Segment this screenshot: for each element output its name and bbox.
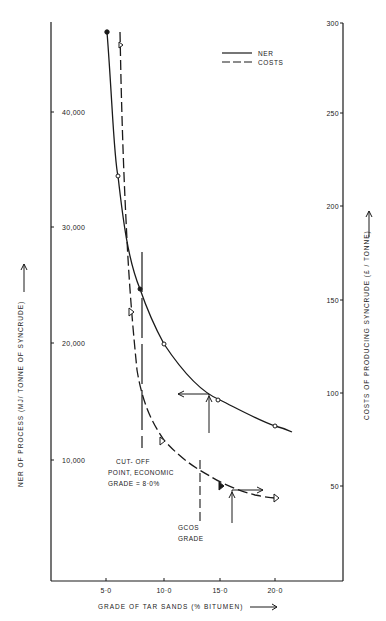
y2-tick-50: 50 <box>331 483 339 490</box>
legend-costs-label: COSTS <box>258 59 283 66</box>
left-y-axis-title: NER OF PROCESS (MJ/ TONNE OF SYNCRUDE) <box>17 301 25 487</box>
x-axis-arrow-icon <box>250 604 277 610</box>
y-tick-20000: 20,000 <box>62 340 85 347</box>
cutoff-text-line1: CUT- OFF <box>116 458 150 465</box>
costs-point-6 <box>119 42 123 48</box>
x-tick-15: 15·0 <box>212 587 227 594</box>
cutoff-annotation: CUT- OFF POINT, ECONOMIC GRADE = 8·0% <box>108 458 174 487</box>
costs-point-20 <box>274 494 279 502</box>
y-tick-10000: 10,000 <box>62 457 85 464</box>
y2-tick-100: 100 <box>326 390 339 397</box>
left-y-tick-labels: 40,000 30,000 20,000 10,000 <box>62 109 85 464</box>
y2-tick-150: 150 <box>326 297 339 304</box>
ner-point-6 <box>116 174 120 178</box>
right-y-axis-title: COSTS OF PRODUCING SYNCRUDE (£ / TONNE) <box>363 230 371 420</box>
gcos-annotation: GCOS GRADE <box>178 524 204 542</box>
x-axis-title: GRADE OF TAR SANDS (% BITUMEN) <box>98 603 243 611</box>
legend: NER COSTS <box>222 50 283 66</box>
left-y-axis-arrow-icon <box>21 264 27 292</box>
y-tick-30000: 30,000 <box>62 224 85 231</box>
cutoff-text-line3: GRADE = 8·0% <box>108 480 160 487</box>
ner-point-15 <box>216 398 220 402</box>
ner-curve <box>107 32 292 432</box>
x-tick-20: 20·0 <box>267 587 282 594</box>
y2-tick-300: 300 <box>326 20 339 27</box>
ner-readoff-arrows <box>178 391 212 433</box>
x-tick-5: 5·0 <box>100 587 111 594</box>
ner-costs-chart: 40,000 30,000 20,000 10,000 300 250 200 … <box>0 0 386 621</box>
ner-markers <box>105 30 277 428</box>
costs-point-15 <box>219 482 224 490</box>
right-y-tick-labels: 300 250 200 150 100 50 <box>326 20 339 490</box>
cutoff-text-line2: POINT, ECONOMIC <box>108 469 174 476</box>
gcos-text-line2: GRADE <box>178 535 204 542</box>
legend-ner-label: NER <box>258 50 274 57</box>
ner-point-20 <box>273 424 277 428</box>
axes-frame <box>51 22 343 581</box>
costs-markers <box>119 42 279 502</box>
costs-curve <box>120 32 276 498</box>
y-tick-40000: 40,000 <box>62 109 85 116</box>
gcos-text-line1: GCOS <box>178 524 199 531</box>
ner-point-5 <box>105 30 109 34</box>
x-tick-10: 10·0 <box>156 587 171 594</box>
y2-tick-200: 200 <box>326 203 339 210</box>
y2-tick-250: 250 <box>326 110 339 117</box>
ner-point-10 <box>162 342 166 346</box>
x-tick-labels: 5·0 10·0 15·0 20·0 <box>100 587 282 594</box>
